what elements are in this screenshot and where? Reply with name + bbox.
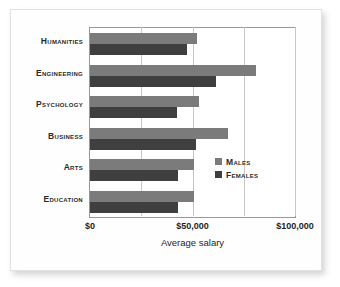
bar-psychology-males [90,96,199,107]
bar-group [90,28,295,60]
bar-humanities-females [90,44,187,55]
legend-item-females: Females [215,168,258,181]
bar-group [90,186,295,218]
bar-education-females [90,202,178,213]
legend-swatch-icon [215,171,222,178]
category-label-arts: Arts [0,162,83,172]
category-label-education: Education [0,194,83,204]
bar-engineering-females [90,76,216,87]
x-axis-title: Average salary [89,237,296,248]
x-tick-label: $0 [85,221,95,231]
category-label-business: Business [0,131,83,141]
chart-legend: MalesFemales [215,155,258,181]
x-tick-label: $100,000 [276,221,314,231]
bar-group [90,123,295,155]
bar-arts-males [90,159,194,170]
bar-education-males [90,191,194,202]
bar-arts-females [90,170,178,181]
bar-business-males [90,128,228,139]
x-tick-label: $50,000 [176,221,209,231]
bars-layer [90,28,295,217]
category-label-humanities: Humanities [0,36,83,46]
legend-swatch-icon [215,158,222,165]
category-label-engineering: Engineering [0,68,83,78]
bar-group [90,154,295,186]
chart-card: HumanitiesEngineeringPsychologyBusinessA… [10,9,322,271]
legend-label: Males [226,157,251,167]
legend-label: Females [226,170,258,180]
bar-business-females [90,139,196,150]
legend-item-males: Males [215,155,258,168]
bar-group [90,91,295,123]
bar-psychology-females [90,107,177,118]
category-label-psychology: Psychology [0,99,83,109]
bar-group [90,60,295,92]
bar-chart: HumanitiesEngineeringPsychologyBusinessA… [11,10,323,272]
gridline [295,27,296,216]
bar-humanities-males [90,33,197,44]
bar-engineering-males [90,65,256,76]
